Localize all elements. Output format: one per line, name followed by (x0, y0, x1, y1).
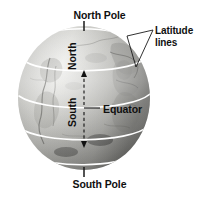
label-north-pole: North Pole (0, 9, 199, 21)
label-north-direction: North (66, 43, 78, 71)
label-south-direction: South (66, 98, 78, 127)
label-latitude-lines-line2: lines (155, 37, 177, 48)
globe-latitude-diagram: North Pole South Pole Latitude lines Equ… (0, 0, 199, 197)
label-latitude-lines: Latitude lines (155, 25, 199, 48)
label-equator: Equator (103, 103, 142, 115)
label-latitude-lines-line1: Latitude (155, 25, 193, 36)
label-south-pole: South Pole (0, 178, 199, 190)
